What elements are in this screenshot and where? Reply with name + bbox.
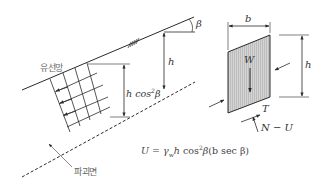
formula-paren: (b sec β) xyxy=(208,145,249,156)
beta-angle-arc xyxy=(189,19,193,32)
slice-width-label: b xyxy=(245,14,251,24)
flow-net-label: 유선망 xyxy=(40,64,63,73)
normal-force-arrow xyxy=(253,117,258,132)
beta-label: β xyxy=(196,19,202,29)
hcos-beta: β xyxy=(155,88,161,99)
flow-net-grid xyxy=(50,63,110,132)
weight-label: W xyxy=(244,55,254,65)
formula-cos: cos xyxy=(180,145,199,156)
diagram-svg xyxy=(0,0,325,187)
slope-diagram: 유선망 파괴면 β h h cos2β b h W T N − U U = γw… xyxy=(0,0,325,187)
slice-height-label: h xyxy=(305,60,311,70)
normal-force-label: N − U xyxy=(261,123,293,133)
shear-force-arrow xyxy=(241,115,260,122)
right-side-force-arrow xyxy=(275,63,290,70)
flow-arrows xyxy=(56,87,76,115)
ground-hatch-icon xyxy=(128,38,139,48)
failure-plane-line xyxy=(22,82,195,177)
left-side-force-arrow xyxy=(209,100,224,107)
shear-label: T xyxy=(262,104,269,114)
failure-plane-label: 파괴면 xyxy=(74,168,97,177)
pore-pressure-formula: U = γwh cos2β(b sec β) xyxy=(141,145,249,158)
soil-slice xyxy=(228,35,270,113)
hcos-text: h cos xyxy=(126,88,151,99)
formula-lhs: U xyxy=(141,145,149,156)
failure-plane-pointer xyxy=(49,144,72,167)
hcos2beta-label: h cos2β xyxy=(126,88,160,99)
formula-eq: = xyxy=(149,145,163,156)
ground-surface-line xyxy=(22,17,194,90)
depth-h-label: h xyxy=(168,57,174,67)
